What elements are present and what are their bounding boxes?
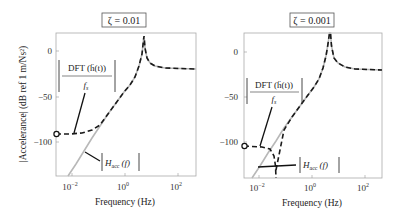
- annotation-dft-denominator: fs: [84, 80, 90, 91]
- annotation-h-acc: Hacc(f): [85, 152, 139, 171]
- y-tick-label: −50: [224, 92, 239, 102]
- x-tick-label: 102: [170, 181, 182, 192]
- y-axis-label: |Accelerance| (dB ref 1 m/Ns²): [18, 46, 29, 162]
- annotation-h-acc-label: Hacc(f): [104, 158, 130, 169]
- y-tick-label: 0: [48, 46, 53, 56]
- y-tick-label: −100: [33, 137, 52, 147]
- annotation-dft: DFT (ḧ(t)) fs: [247, 78, 302, 146]
- annotation-dft-numerator: DFT (ḧ(t)): [255, 80, 293, 90]
- annotation-dft-denominator: fs: [272, 94, 278, 105]
- panel-title: ζ = 0.001: [293, 15, 330, 27]
- y-tick-label: −100: [219, 137, 238, 147]
- x-tick-label: 100: [304, 182, 316, 193]
- annotation-h-acc-label: Hacc(f): [302, 160, 328, 171]
- dft-curve: [244, 33, 382, 178]
- panel-zeta-0.01: ζ = 0.01 0 −50 −100 10−2 100 102: [18, 13, 196, 208]
- start-marker-icon: [54, 131, 59, 136]
- x-axis-label: Frequency (Hz): [282, 198, 342, 209]
- panel-zeta-0.001: ζ = 0.001 0 −50 −100 10−2 100 102 DFT (ḧ…: [219, 13, 382, 209]
- annotation-h-acc: Hacc(f): [258, 157, 339, 173]
- start-marker-icon: [242, 143, 247, 148]
- x-tick-label: 10−2: [62, 181, 77, 192]
- x-tick-label: 100: [117, 181, 129, 192]
- annotation-dft-numerator: DFT (ḧ(t)): [68, 63, 106, 73]
- dft-curve: [56, 36, 196, 134]
- analytic-curve: [252, 33, 382, 178]
- annotation-dft: DFT (ḧ(t)) fs: [59, 60, 115, 133]
- y-tick-label: 0: [234, 47, 239, 57]
- axes-box: [56, 33, 196, 176]
- x-tick-label: 102: [357, 182, 369, 193]
- axes-box: [244, 33, 382, 178]
- figure: ζ = 0.01 0 −50 −100 10−2 100 102: [0, 0, 396, 219]
- panel-title: ζ = 0.01: [108, 15, 140, 27]
- x-tick-label: 10−2: [249, 182, 264, 193]
- y-tick-label: −50: [38, 92, 53, 102]
- y-ticks: 0 −50 −100: [219, 47, 247, 147]
- x-axis-label: Frequency (Hz): [95, 197, 155, 208]
- analytic-curve: [68, 36, 196, 176]
